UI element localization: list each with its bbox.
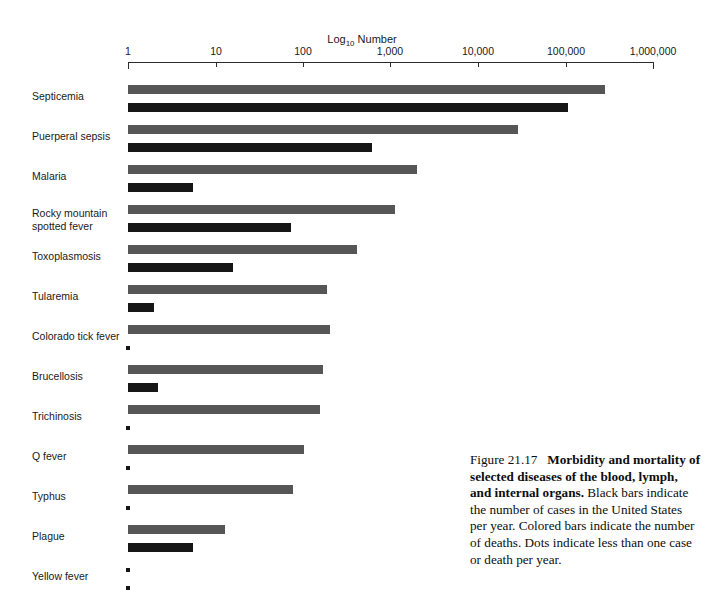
category-label-yellow-fever: Yellow fever [32, 570, 137, 583]
x-axis-tick [128, 62, 129, 69]
bar-cases [128, 143, 372, 152]
x-axis-tick [566, 62, 567, 67]
bar-cases [128, 223, 291, 232]
dot-marker-cases [126, 426, 130, 430]
bar-deaths [128, 285, 327, 294]
bar-deaths [128, 405, 320, 414]
bar-cases [128, 183, 193, 192]
x-axis-tick-label: 1,000,000 [630, 45, 677, 57]
x-axis-title-text: Log10 Number [327, 33, 396, 45]
bar-deaths [128, 445, 304, 454]
figure-container: Log10 Number 1101001,00010,000100,0001,0… [0, 0, 713, 608]
bar-deaths [128, 205, 395, 214]
x-axis-tick-label: 1,000 [377, 45, 403, 57]
x-axis-tick [478, 62, 479, 67]
category-label-typhus: Typhus [32, 490, 137, 503]
bar-cases [128, 543, 193, 552]
x-axis-tick-label: 100,000 [547, 45, 585, 57]
category-label-brucellosis: Brucellosis [32, 370, 137, 383]
bar-deaths [128, 125, 518, 134]
x-axis-tick-label: 1 [125, 45, 131, 57]
x-axis-tick [390, 62, 391, 67]
x-axis-tick-label: 10,000 [462, 45, 494, 57]
bar-deaths [128, 245, 357, 254]
dot-marker-cases [126, 466, 130, 470]
dot-marker-cases [126, 506, 130, 510]
category-label-septicemia: Septicemia [32, 90, 137, 103]
figure-caption: Figure 21.17 Morbidity and mortality of … [470, 452, 702, 568]
category-label-tularemia: Tularemia [32, 290, 137, 303]
bar-cases [128, 383, 158, 392]
category-label-puerperal-sepsis: Puerperal sepsis [32, 130, 137, 143]
bar-cases [128, 103, 568, 112]
bar-cases [128, 263, 233, 272]
category-label-rocky-mountain-spotted-fever: Rocky mountain spotted fever [32, 207, 137, 233]
bar-deaths [128, 525, 225, 534]
x-axis-tick [303, 62, 304, 67]
dot-marker-cases [126, 586, 130, 590]
bar-deaths [128, 85, 605, 94]
bar-deaths [128, 325, 330, 334]
category-label-plague: Plague [32, 530, 137, 543]
x-axis-tick-label: 100 [294, 45, 312, 57]
bar-deaths [128, 165, 417, 174]
category-label-trichinosis: Trichinosis [32, 410, 137, 423]
caption-number: Figure 21.17 [470, 452, 537, 467]
category-label-malaria: Malaria [32, 170, 137, 183]
x-axis-tick [216, 62, 217, 67]
bar-deaths [128, 365, 323, 374]
category-label-colorado-tick-fever: Colorado tick fever [32, 330, 137, 343]
x-axis-tick [653, 62, 654, 69]
bar-cases [128, 303, 154, 312]
dot-marker-deaths [126, 568, 130, 572]
bar-deaths [128, 485, 293, 494]
category-label-q-fever: Q fever [32, 450, 137, 463]
dot-marker-cases [126, 346, 130, 350]
x-axis-tick-label: 10 [210, 45, 222, 57]
category-label-toxoplasmosis: Toxoplasmosis [32, 250, 137, 263]
